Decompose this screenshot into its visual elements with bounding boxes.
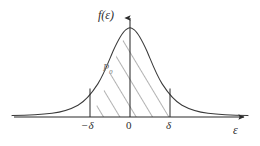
- tick-label-origin: 0: [126, 120, 132, 131]
- shaded-region-label-subscript: 0: [109, 68, 113, 76]
- tick-label-positive-delta: δ: [166, 120, 171, 131]
- probability-density-figure: f(ε) ε −δ 0 δ P0: [0, 0, 260, 146]
- x-axis-label: ε: [233, 124, 238, 136]
- shaded-region-label: P0: [103, 63, 113, 76]
- tick-label-negative-delta: −δ: [81, 120, 94, 131]
- y-axis-label: f(ε): [98, 9, 114, 21]
